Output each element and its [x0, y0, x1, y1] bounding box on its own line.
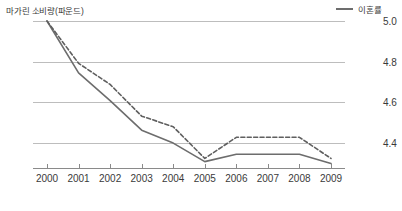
legend-label: 이혼률 [358, 3, 382, 15]
y-axis-right-tick-label: 4.6 [383, 97, 402, 108]
x-axis-tick-label: 2009 [320, 173, 342, 184]
x-axis-tick-label: 2001 [67, 173, 89, 184]
left-axis-title: 마가린 소비량(파운드) [6, 4, 84, 16]
x-axis-tick-label: 2003 [131, 173, 153, 184]
x-axis-tick-label: 2005 [194, 173, 216, 184]
plot-area: 8.27.16.04.9 5.04.84.64.4 20002001200220… [33, 21, 345, 169]
y-axis-right-tick-label: 4.8 [383, 56, 402, 67]
x-axis-tick-label: 2002 [99, 173, 121, 184]
x-axis-tick-label: 2000 [36, 173, 58, 184]
y-axis-right-tick-label: 5.0 [383, 16, 402, 27]
x-axis-tick-label: 2004 [162, 173, 184, 184]
chart-legend: 이혼률 [336, 3, 382, 15]
series-line-dashed [47, 21, 331, 158]
y-axis-right-tick-label: 4.4 [383, 138, 402, 149]
legend-line-icon [336, 8, 353, 10]
x-axis-tick-label: 2008 [288, 173, 310, 184]
series-line-solid [47, 21, 331, 163]
series-lines [33, 21, 345, 169]
x-axis-tick-label: 2006 [225, 173, 247, 184]
x-axis-tick-label: 2007 [257, 173, 279, 184]
